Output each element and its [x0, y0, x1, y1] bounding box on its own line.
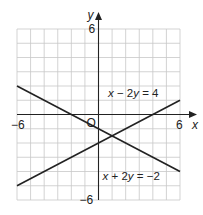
annot-part: + 2	[108, 170, 128, 182]
y-axis-label: y	[87, 8, 95, 22]
annot-part: = 4	[139, 87, 159, 99]
y-tick-label: −6	[80, 193, 94, 207]
x-axis-label: x	[191, 118, 199, 132]
origin-label: O	[87, 116, 96, 130]
x-tick-label: 6	[176, 118, 183, 132]
x-tick-label: −6	[11, 118, 25, 132]
equation-label-x-plus-2y-equals-neg2: x + 2y = −2	[102, 170, 160, 182]
y-tick-label: 6	[89, 22, 96, 36]
y-axis-arrow-icon	[95, 12, 102, 20]
equation-label-x-minus-2y-equals-4: x − 2y = 4	[107, 87, 159, 99]
annot-part: = −2	[134, 170, 160, 182]
coordinate-plane: x y O −6 6 6 −6 x − 2y = 4 x + 2y = −2	[0, 0, 203, 215]
annot-part: − 2	[114, 87, 134, 99]
